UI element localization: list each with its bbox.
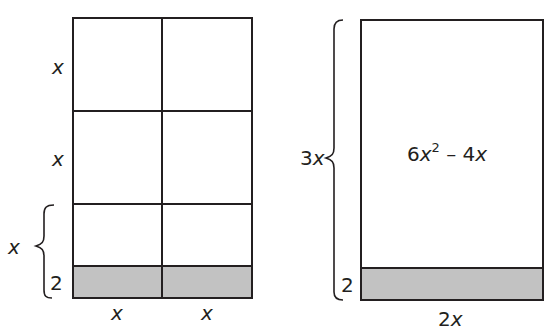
- right-figure: 3x 6x2 – 4x 2 2x: [300, 20, 543, 331]
- area-model-diagram: x x x 2 x x 3x 6x2 – 4x 2 2x: [0, 0, 544, 331]
- left-strip-label: 2: [50, 271, 63, 295]
- right-width-label: 2x: [438, 307, 463, 331]
- left-row-label-2: x: [51, 147, 64, 171]
- left-brace-label: x: [7, 235, 20, 259]
- left-figure: x x x 2 x x: [7, 18, 252, 325]
- right-strip-label: 2: [341, 273, 354, 297]
- left-col-label-1: x: [110, 301, 123, 325]
- left-col-label-2: x: [200, 301, 213, 325]
- right-brace: [326, 20, 343, 300]
- right-area-label: 6x2 – 4x: [407, 140, 487, 166]
- right-shaded-strip: [361, 268, 543, 300]
- right-height-label: 3x: [300, 146, 325, 170]
- left-row-label-1: x: [51, 55, 64, 79]
